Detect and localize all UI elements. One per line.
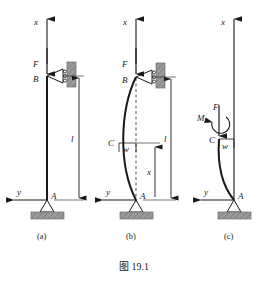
panel-b-x-axis-label: x: [122, 17, 127, 27]
panel-a-wall-block: [67, 62, 76, 87]
panel-b-caption: (b): [126, 231, 136, 241]
panel-a-y-axis-label: y: [16, 187, 21, 197]
panel-b-node-b-label: B: [122, 75, 128, 85]
panel-a-caption: (a): [37, 231, 47, 241]
panel-c-caption: (c): [224, 231, 234, 241]
panel-b-deflection-label: w: [123, 144, 129, 154]
panel-c-node-c-label: C: [209, 135, 216, 145]
panel-b-node-a-label: A: [139, 191, 146, 201]
panel-b-coordinate-label: x: [146, 167, 151, 177]
panel-a-x-axis-label: x: [33, 17, 38, 27]
figure-canvas: x F B A y l (a) x F: [0, 0, 269, 286]
panel-b-y-axis-label: y: [105, 187, 110, 197]
panel-c-ground-block: [218, 212, 251, 219]
figure-19-1: x F B A y l (a) x F: [0, 0, 269, 286]
panel-c-force-label: F: [212, 102, 219, 112]
panel-c-deflection-label: w: [222, 141, 228, 151]
panel-a-node-a-label: A: [50, 191, 57, 201]
panel-a-node-b-label: B: [33, 74, 39, 84]
panel-c-node-a-label: A: [237, 191, 244, 201]
panel-c-x-axis-label: x: [220, 17, 225, 27]
panel-b-node-c-label: C: [108, 138, 115, 148]
panel-b-ground-block: [120, 212, 153, 219]
figure-caption: 图 19.1: [119, 261, 149, 272]
panel-b-force-label: F: [121, 59, 128, 69]
panel-a-force-label: F: [32, 59, 39, 69]
panel-c-moment-label: M: [196, 113, 205, 123]
panel-a-ground-block: [31, 212, 64, 219]
panel-c-y-axis-label: y: [203, 187, 208, 197]
panel-b-wall-block: [156, 63, 165, 88]
